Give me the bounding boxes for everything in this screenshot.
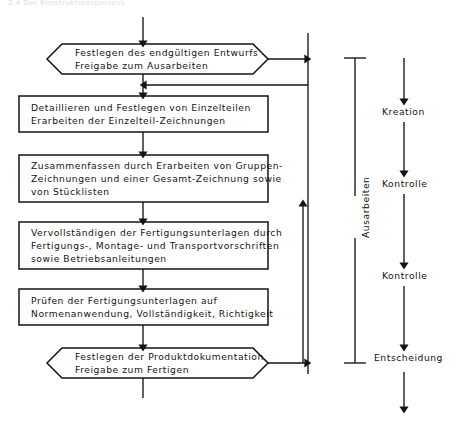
node-line: Zusammenfassen durch Erarbeiten von Grup… — [31, 159, 268, 172]
node-line: Prüfen der Fertigungsunterlagen auf — [31, 294, 268, 307]
node-line: Vervollständigen der Fertigungsunterlage… — [31, 226, 268, 239]
node-text: Detaillieren und Festlegen von Einzeltei… — [19, 96, 268, 132]
node-produktdokumentation[interactable]: Festlegen der Produktdokumentation Freig… — [47, 348, 268, 378]
node-line: Detaillieren und Festlegen von Einzeltei… — [31, 101, 268, 114]
stage-label-kontrolle-2: Kontrolle — [382, 270, 428, 281]
node-detaillieren[interactable]: Detaillieren und Festlegen von Einzeltei… — [19, 96, 268, 132]
phase-bracket-label: Ausarbeiten — [360, 177, 371, 238]
node-line: sowie Betriebsanleitungen — [31, 252, 268, 265]
node-vervollstaendigen[interactable]: Vervollständigen der Fertigungsunterlage… — [19, 222, 268, 269]
stage-label-kontrolle-1: Kontrolle — [382, 178, 428, 189]
node-line: Fertigungs-, Montage- und Transportvorsc… — [31, 239, 268, 252]
node-festlegen-entwurf[interactable]: Festlegen des endgültigen Entwurfs Freig… — [47, 44, 268, 74]
node-line: Erarbeiten der Einzelteil-Zeichnungen — [31, 114, 268, 127]
node-zusammenfassen[interactable]: Zusammenfassen durch Erarbeiten von Grup… — [19, 155, 268, 202]
node-text: Prüfen der Fertigungsunterlagen auf Norm… — [19, 289, 268, 325]
node-line: Festlegen der Produktdokumentation — [75, 350, 268, 363]
node-text: Vervollständigen der Fertigungsunterlage… — [19, 222, 268, 269]
stage-label-kreation: Kreation — [382, 106, 425, 117]
node-line: Normenanwendung, Vollständigkeit, Richti… — [31, 307, 268, 320]
node-line: Festlegen des endgültigen Entwurfs — [75, 46, 268, 59]
node-pruefen[interactable]: Prüfen der Fertigungsunterlagen auf Norm… — [19, 289, 268, 325]
diagram-canvas: 2.4 Der Konstruktionsprozess — [0, 0, 457, 422]
node-line: von Stücklisten — [31, 185, 268, 198]
node-text: Festlegen des endgültigen Entwurfs Freig… — [47, 44, 268, 74]
node-line: Zeichnungen und einer Gesamt-Zeichnung s… — [31, 172, 268, 185]
node-text: Festlegen der Produktdokumentation Freig… — [47, 348, 268, 378]
stage-label-entscheidung: Entscheidung — [374, 352, 443, 363]
node-line: Freigabe zum Ausarbeiten — [75, 59, 268, 72]
node-line: Freigabe zum Fertigen — [75, 363, 268, 376]
node-text: Zusammenfassen durch Erarbeiten von Grup… — [19, 155, 268, 202]
